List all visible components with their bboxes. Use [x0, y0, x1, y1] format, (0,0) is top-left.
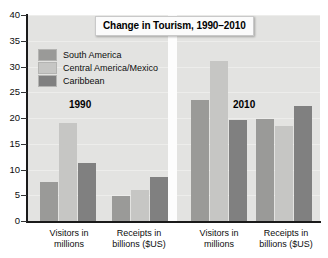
bar [191, 100, 209, 221]
x-group-label-line2: millions [31, 239, 107, 250]
x-group-label-line1: Visitors in [181, 228, 257, 239]
bar [112, 196, 130, 221]
x-group-label-line1: Receipts in [101, 228, 177, 239]
legend-label-south-america: South America [63, 51, 122, 60]
x-group-label-2010-receipts: Receipts in billions ($US) [248, 228, 324, 250]
bar [256, 119, 274, 221]
bar [150, 177, 168, 221]
legend-item-central-america-mexico: Central America/Mexico [38, 62, 158, 74]
x-group-label-line1: Receipts in [248, 228, 324, 239]
tourism-bar-chart: 0510152025303540 Change in Tourism, 1990… [0, 0, 328, 258]
x-group-label-line1: Visitors in [31, 228, 107, 239]
bar [229, 120, 247, 221]
x-group-label-2010-visitors: Visitors in millions [181, 228, 257, 250]
bar [59, 123, 77, 221]
legend-swatch-central-america-mexico [38, 62, 57, 74]
bar [275, 126, 293, 221]
bar [78, 163, 96, 221]
legend-item-south-america: South America [38, 49, 158, 61]
x-group-label-1990-receipts: Receipts in billions ($US) [101, 228, 177, 250]
chart-title: Change in Tourism, 1990–2010 [95, 16, 254, 36]
year-annotation-2010: 2010 [233, 99, 255, 110]
bar [210, 61, 228, 221]
x-group-label-line2: billions ($US) [248, 239, 324, 250]
legend-swatch-south-america [38, 49, 57, 61]
legend-label-caribbean: Caribbean [63, 77, 105, 86]
bars-layer [0, 0, 328, 258]
x-group-label-line2: billions ($US) [101, 239, 177, 250]
legend-item-caribbean: Caribbean [38, 75, 158, 87]
bar [131, 190, 149, 221]
legend-label-central-america-mexico: Central America/Mexico [63, 64, 158, 73]
year-annotation-1990: 1990 [69, 99, 91, 110]
bar [294, 106, 312, 221]
x-group-label-1990-visitors: Visitors in millions [31, 228, 107, 250]
x-group-label-line2: millions [181, 239, 257, 250]
legend-swatch-caribbean [38, 75, 57, 87]
bar [40, 182, 58, 221]
chart-legend: South America Central America/Mexico Car… [38, 49, 158, 88]
